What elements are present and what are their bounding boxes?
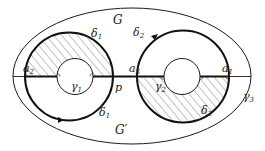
figure-diagram: G G′ δ1 δ1 δ2 δ2 a2 a3 a1 γ1 γ2 γ3 p bbox=[0, 0, 265, 151]
inner-circle-gamma2 bbox=[164, 59, 200, 95]
label-delta1-top: δ1 bbox=[91, 27, 102, 41]
label-gamma3: γ3 bbox=[243, 90, 255, 104]
label-G-prime: G′ bbox=[115, 123, 128, 137]
label-delta1-bottom: δ1 bbox=[99, 106, 110, 120]
label-delta2-top: δ2 bbox=[133, 26, 145, 40]
label-p: p bbox=[115, 81, 122, 94]
label-a1: a1 bbox=[222, 62, 233, 76]
label-G: G bbox=[113, 13, 123, 27]
arrow-delta1 bbox=[58, 117, 64, 123]
